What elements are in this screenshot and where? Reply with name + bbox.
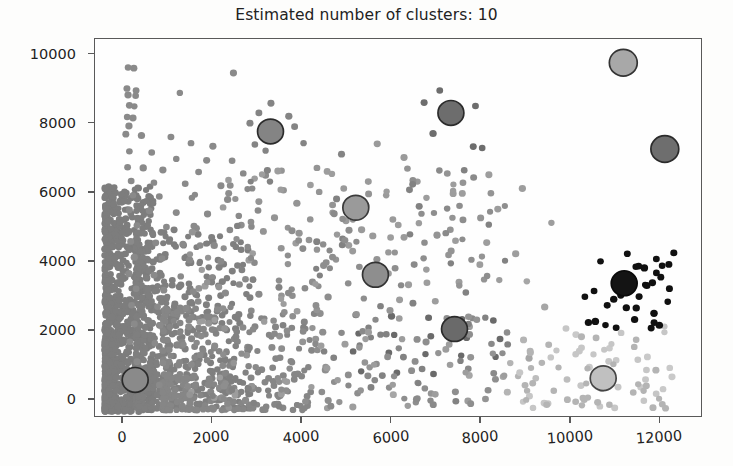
scatter-plot-figure: Estimated number of clusters: 10 0200040…: [0, 0, 733, 466]
x-tick-label: 6000: [345, 426, 436, 448]
cluster-centers-layer: [95, 39, 701, 416]
x-tick-mark: [300, 417, 302, 423]
y-tick-label: 2000: [2, 322, 76, 338]
x-tick-label: 4000: [256, 426, 347, 448]
x-tick-label: 8000: [435, 426, 526, 448]
x-tick-mark: [569, 417, 571, 423]
x-tick-mark: [479, 417, 481, 423]
x-tick-label: 2000: [166, 426, 257, 448]
x-tick-mark: [121, 417, 123, 423]
y-tick-label: 10000: [2, 46, 76, 62]
x-tick-label: 0: [76, 426, 167, 448]
y-tick-label: 0: [2, 391, 76, 407]
y-tick-label: 8000: [2, 115, 76, 131]
x-tick-mark: [659, 417, 661, 423]
x-tick-mark: [211, 417, 213, 423]
page-title: Estimated number of clusters: 10: [0, 6, 733, 24]
x-tick-mark: [390, 417, 392, 423]
x-tick-label: 12000: [614, 426, 705, 448]
y-tick-label: 4000: [2, 253, 76, 269]
x-tick-label: 10000: [524, 426, 615, 448]
plot-area: [94, 38, 702, 417]
y-tick-label: 6000: [2, 184, 76, 200]
